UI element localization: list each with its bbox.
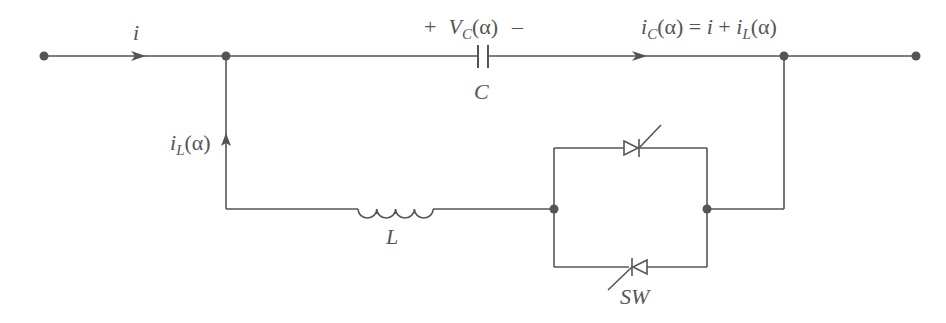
label-inductor: L <box>385 224 398 249</box>
label-input-current: i <box>133 20 139 45</box>
label-capacitor-current: iC(α) = i + iL(α) <box>641 14 777 42</box>
circuit-diagram: i + VC(α) – C iC(α) = i + iL(α) iL(α) L … <box>0 0 946 323</box>
capacitor-symbol <box>478 45 488 68</box>
label-inductor-current: iL(α) <box>170 130 211 158</box>
right-terminal-node <box>912 52 921 61</box>
switch-block <box>554 148 707 267</box>
switch-left-node <box>550 205 559 214</box>
thyristor-forward-icon <box>624 125 661 157</box>
label-switch: SW <box>620 284 651 309</box>
label-capacitor-voltage: + VC(α) – <box>424 14 524 42</box>
label-capacitor: C <box>474 79 489 104</box>
left-terminal-node <box>40 52 49 61</box>
inductor-symbol <box>358 209 433 218</box>
